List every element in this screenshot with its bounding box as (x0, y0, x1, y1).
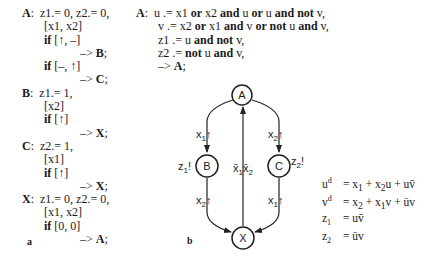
output-label-b: z1! (178, 160, 191, 175)
edge-a-to-c (252, 100, 279, 152)
equation-line: vd = x2 + x1v + ūv (322, 194, 415, 211)
node-a-label: A (238, 89, 246, 101)
edge-label-c-to-x: x1↑ (268, 194, 283, 209)
node-x-label: X (239, 232, 247, 244)
state-diagram: A B C X x1↑ x2↑ x2↑ x1↑ x̄1x̄2 z1! z2! (0, 0, 430, 265)
node-c-label: C (275, 160, 283, 172)
edge-a-to-b (207, 100, 233, 152)
edge-label-a-to-c: x2↑ (268, 128, 283, 143)
equation-line: z2 = ūv (322, 230, 364, 245)
equation-line: ud = x1 + x2u + uv̄ (322, 176, 415, 193)
output-label-c: z2! (291, 155, 304, 170)
node-b-label: B (203, 160, 210, 172)
edge-label-a-to-b: x1↑ (196, 128, 211, 143)
edge-label-b-to-x: x2↑ (196, 194, 211, 209)
equation-line: z1 = uv̄ (322, 212, 364, 227)
